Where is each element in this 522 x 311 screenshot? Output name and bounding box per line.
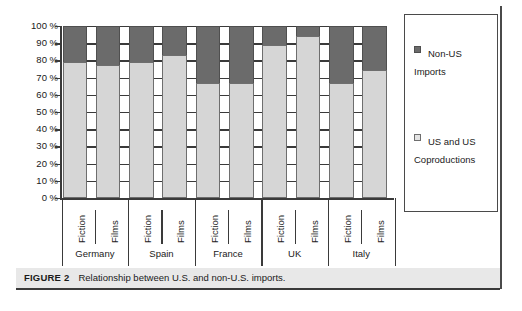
bar-segment-us-coproductions xyxy=(96,65,121,198)
bar-column xyxy=(129,26,154,198)
bar-segment-non-us-imports xyxy=(362,26,387,71)
figure-caption: FIGURE 2Relationship between U.S. and no… xyxy=(24,271,285,285)
bar-column xyxy=(96,26,121,198)
bar-segment-us-coproductions xyxy=(129,62,154,198)
dark-gray-swatch-icon xyxy=(414,46,421,53)
bar-segment-non-us-imports xyxy=(196,26,221,84)
y-axis-tick-mark xyxy=(55,164,61,165)
x-axis-group-label: UK xyxy=(261,244,328,266)
bar-segment-us-coproductions xyxy=(162,55,187,198)
y-axis-tick-mark xyxy=(55,95,61,96)
bar-segment-non-us-imports xyxy=(96,26,121,66)
group-separator-rule xyxy=(128,198,129,266)
y-axis-tick-mark xyxy=(55,26,61,27)
bar-segment-non-us-imports xyxy=(229,26,254,84)
y-axis-tick-mark xyxy=(55,129,61,130)
subcategory-separator-rule xyxy=(361,210,362,244)
y-axis-tick-label: 60 % xyxy=(16,90,58,100)
y-axis-tick-label: 50 % xyxy=(16,107,58,117)
group-separator-rule xyxy=(395,198,396,266)
group-separator-rule xyxy=(195,198,196,266)
figure-right-rule xyxy=(500,6,502,289)
bar-column xyxy=(196,26,221,198)
y-axis-tick-label: 90 % xyxy=(16,38,58,48)
bar-segment-us-coproductions xyxy=(196,83,221,198)
y-axis-tick-label: 80 % xyxy=(16,55,58,65)
y-axis-tick-label: 70 % xyxy=(16,73,58,83)
y-axis-tick-label: 10 % xyxy=(16,176,58,186)
y-axis-tick-label: 20 % xyxy=(16,159,58,169)
bar-segment-us-coproductions xyxy=(362,70,387,198)
legend-label-non-us-imports: Non-US Imports xyxy=(414,48,462,77)
bar-segment-us-coproductions xyxy=(229,83,254,198)
subcategory-separator-rule xyxy=(295,210,296,244)
bar-segment-non-us-imports xyxy=(162,26,187,56)
group-separator-rule xyxy=(62,198,63,266)
group-separator-rule xyxy=(261,198,262,266)
bar-column xyxy=(296,26,321,198)
bar-column xyxy=(362,26,387,198)
y-axis-tick-mark xyxy=(55,43,61,44)
y-axis-tick-mark xyxy=(55,146,61,147)
subcategory-separator-rule xyxy=(228,210,229,244)
legend-item-us-coproductions: US and US Coproductions xyxy=(414,131,494,167)
y-axis-tick-label: 100 % xyxy=(16,21,58,31)
x-axis-group-label: Italy xyxy=(328,244,395,266)
x-axis-group-label: France xyxy=(195,244,262,266)
x-axis-subcategory-label: Films xyxy=(363,203,403,243)
figure-number: FIGURE 2 xyxy=(24,272,69,283)
y-axis-tick-labels: 100 %90 %80 %70 %60 %50 %40 %30 %20 %10 … xyxy=(16,12,58,198)
y-axis-tick-mark xyxy=(55,112,61,113)
subcategory-separator-rule xyxy=(95,210,96,244)
bar-column xyxy=(229,26,254,198)
chart-legend: Non-US Imports US and US Coproductions xyxy=(404,14,498,212)
bar-segment-non-us-imports xyxy=(262,26,287,46)
light-gray-swatch-icon xyxy=(414,134,421,141)
bars-container xyxy=(62,26,395,198)
chart-plot-area: 100 %90 %80 %70 %60 %50 %40 %30 %20 %10 … xyxy=(16,12,396,260)
x-axis-group-label: Spain xyxy=(128,244,195,266)
bar-column xyxy=(63,26,88,198)
y-axis-tick-label: 30 % xyxy=(16,141,58,151)
x-axis-group-labels: GermanySpainFranceUKItaly xyxy=(62,244,395,266)
bar-segment-us-coproductions xyxy=(262,45,287,198)
bar-column xyxy=(329,26,354,198)
bar-segment-us-coproductions xyxy=(296,36,321,198)
bar-segment-non-us-imports xyxy=(129,26,154,63)
figure-title: Relationship between U.S. and non-U.S. i… xyxy=(78,272,285,283)
bar-segment-non-us-imports xyxy=(329,26,354,84)
y-axis-tick-label: 0 % xyxy=(16,193,58,203)
y-axis-tick-mark xyxy=(55,181,61,182)
caption-rule xyxy=(16,288,500,290)
y-axis-tick-mark xyxy=(55,198,61,199)
bar-column xyxy=(162,26,187,198)
legend-item-non-us-imports: Non-US Imports xyxy=(414,43,494,79)
y-axis-tick-mark xyxy=(55,78,61,79)
bar-segment-us-coproductions xyxy=(63,62,88,198)
figure-container: 100 %90 %80 %70 %60 %50 %40 %30 %20 %10 … xyxy=(0,0,522,311)
bar-segment-us-coproductions xyxy=(329,83,354,198)
x-axis-group-label: Germany xyxy=(62,244,129,266)
y-axis-tick-mark xyxy=(55,60,61,61)
y-axis-tick-label: 40 % xyxy=(16,124,58,134)
legend-label-us-coproductions: US and US Coproductions xyxy=(414,136,476,165)
subcategory-separator-rule xyxy=(161,210,162,244)
bar-column xyxy=(262,26,287,198)
bar-segment-non-us-imports xyxy=(63,26,88,63)
group-separator-rule xyxy=(328,198,329,266)
